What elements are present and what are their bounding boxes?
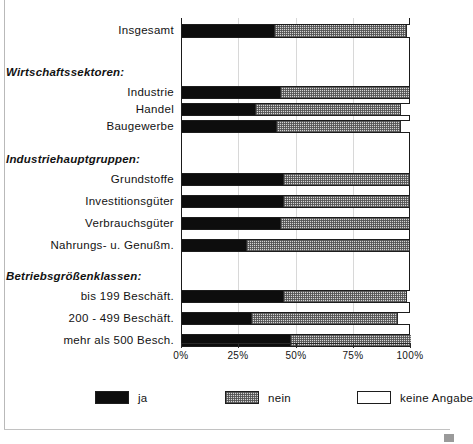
category-label: Handel (0, 103, 174, 115)
legend-swatch-ja (95, 391, 129, 404)
plot-area (181, 18, 410, 343)
x-axis-tick (296, 343, 297, 348)
bar-segment-nein (274, 25, 407, 37)
bar-segment-keine-angabe (409, 240, 411, 251)
stacked-bar[interactable] (181, 120, 410, 133)
x-axis-tick-label: 0% (173, 350, 188, 361)
x-axis-tick-label: 100% (396, 350, 423, 361)
x-axis: 0%25%50%75%100% (181, 343, 410, 369)
legend-item[interactable]: keine Angabe (357, 391, 473, 404)
stacked-bar[interactable] (181, 217, 410, 230)
bar-row[interactable] (181, 173, 410, 186)
stacked-bar[interactable] (181, 195, 410, 208)
bar-segment-keine-angabe (409, 196, 411, 207)
category-label: bis 199 Beschäft. (0, 290, 174, 302)
x-axis-tick (181, 343, 182, 348)
stacked-bar[interactable] (181, 173, 410, 186)
stacked-bar[interactable] (181, 290, 410, 303)
category-label: Investitionsgüter (0, 195, 174, 207)
legend-item[interactable]: nein (225, 391, 291, 404)
bar-segment-nein (276, 121, 400, 132)
x-axis-tick-label: 50% (285, 350, 306, 361)
bar-segment-ja (182, 196, 283, 207)
bar-segment-ja (182, 174, 283, 185)
bar-segment-ja (182, 25, 274, 37)
bar-segment-keine-angabe (397, 313, 411, 324)
bar-segment-ja (182, 87, 280, 98)
bar-segment-ja (182, 291, 283, 302)
category-label: Verbrauchsgüter (0, 217, 174, 229)
group-heading: Wirtschaftssektoren: (0, 66, 174, 78)
bar-segment-keine-angabe (409, 87, 411, 98)
x-axis-tick-label: 75% (342, 350, 363, 361)
stacked-bar[interactable] (181, 312, 410, 325)
category-label: Baugewerbe (0, 120, 174, 132)
bar-row[interactable] (181, 290, 410, 303)
bar-segment-ja (182, 104, 255, 115)
bar-segment-ja (182, 218, 280, 229)
bar-segment-keine-angabe (409, 174, 411, 185)
bar-segment-ja (182, 313, 251, 324)
page-corner-mark (444, 434, 454, 442)
legend-label: nein (268, 392, 291, 404)
bar-segment-nein (251, 313, 398, 324)
x-axis-tick (353, 343, 354, 348)
legend-item[interactable]: ja (95, 391, 148, 404)
bar-segment-keine-angabe (400, 121, 411, 132)
legend-label: ja (138, 392, 148, 404)
group-heading: Industriehauptgruppen: (0, 153, 174, 165)
x-axis-tick (410, 343, 411, 348)
x-axis-tick (238, 343, 239, 348)
stacked-bar[interactable] (181, 239, 410, 252)
bar-segment-nein (246, 240, 409, 251)
legend-swatch-keine-angabe (357, 391, 391, 404)
bar-segment-keine-angabe (406, 291, 411, 302)
x-axis-tick-label: 25% (227, 350, 248, 361)
category-label: Industrie (0, 86, 174, 98)
bar-row[interactable] (181, 120, 410, 133)
bar-segment-keine-angabe (409, 218, 411, 229)
bar-segment-nein (283, 196, 409, 207)
category-label: 200 - 499 Beschäft. (0, 312, 174, 324)
legend-label: keine Angabe (400, 392, 473, 404)
bar-row[interactable] (181, 312, 410, 325)
stacked-bar[interactable] (181, 103, 410, 116)
page-frame-bottom-rule (4, 429, 450, 430)
group-heading: Betriebsgrößenklassen: (0, 270, 174, 282)
bar-segment-ja (182, 121, 276, 132)
bar-segment-keine-angabe (406, 25, 411, 37)
category-label-column: InsgesamtIndustrieHandelBaugewerbeGrunds… (0, 18, 174, 343)
legend-swatch-nein (225, 391, 259, 404)
bar-row[interactable] (181, 86, 410, 99)
bar-row[interactable] (181, 239, 410, 252)
bar-segment-nein (280, 218, 408, 229)
bar-segment-nein (255, 104, 399, 115)
bar-row[interactable] (181, 103, 410, 116)
bar-segment-nein (283, 291, 407, 302)
stacked-bar[interactable] (181, 24, 410, 38)
category-label: Grundstoffe (0, 173, 174, 185)
bar-segment-nein (283, 174, 409, 185)
bar-segment-ja (182, 240, 246, 251)
bar-segment-nein (280, 87, 408, 98)
bar-row[interactable] (181, 217, 410, 230)
category-label: mehr als 500 Besch. (0, 334, 174, 346)
category-label: Nahrungs- u. Genußm. (0, 239, 174, 251)
bar-row[interactable] (181, 24, 410, 38)
bar-segment-keine-angabe (400, 104, 411, 115)
stacked-bar[interactable] (181, 86, 410, 99)
category-label: Insgesamt (0, 24, 174, 36)
bar-row[interactable] (181, 195, 410, 208)
